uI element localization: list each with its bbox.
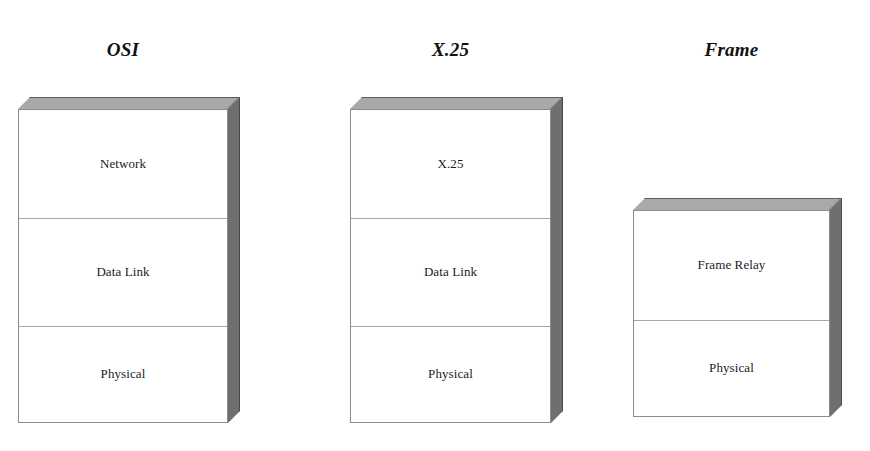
stack-front-face-osi: Network Data Link Physical	[18, 109, 228, 423]
stack-frame: Frame Relay Physical	[633, 198, 842, 417]
stack-title-frame: Frame	[633, 40, 830, 59]
protocol-stack-diagram: OSI Network Data Link Physical X.25 X.25…	[0, 0, 870, 451]
layer-cell: X.25	[351, 110, 550, 219]
layer-label: Physical	[428, 366, 473, 382]
stack-top-face-frame	[633, 198, 842, 210]
layer-label: Frame Relay	[698, 257, 766, 273]
layer-cell: Physical	[351, 327, 550, 422]
stack-title-osi: OSI	[18, 40, 228, 59]
layer-label: Data Link	[424, 264, 477, 280]
layer-cell: Physical	[19, 327, 227, 422]
stack-top-face-osi	[18, 97, 240, 109]
stack-front-face-x25: X.25 Data Link Physical	[350, 109, 551, 423]
stack-right-face-osi	[228, 97, 240, 423]
layer-cell: Data Link	[351, 219, 550, 326]
stack-osi: Network Data Link Physical	[18, 97, 240, 423]
stack-right-face-frame	[830, 198, 842, 417]
stack-front-face-frame: Frame Relay Physical	[633, 210, 830, 417]
stack-top-face-x25	[350, 97, 563, 109]
layer-label: Data Link	[96, 264, 149, 280]
layer-label: Physical	[709, 360, 754, 376]
layer-label: X.25	[437, 156, 463, 172]
layer-cell: Network	[19, 110, 227, 219]
layer-cell: Frame Relay	[634, 211, 829, 321]
layer-label: Network	[100, 156, 146, 172]
layer-cell: Data Link	[19, 219, 227, 326]
stack-right-face-x25	[551, 97, 563, 423]
stack-x25: X.25 Data Link Physical	[350, 97, 563, 423]
layer-cell: Physical	[634, 321, 829, 416]
stack-title-x25: X.25	[350, 40, 551, 59]
layer-label: Physical	[101, 366, 146, 382]
